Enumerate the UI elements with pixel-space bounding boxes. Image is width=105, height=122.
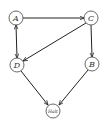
node-halt-label: Halt [47,109,58,114]
edge-c-to-d [23,23,86,61]
node-c-label: C [88,14,94,23]
node-d: D [10,58,24,72]
node-halt: Halt [46,104,60,118]
node-a-label: A [12,14,19,23]
edge-a-d-bidirectional [16,25,17,58]
node-a: A [9,11,23,25]
node-c: C [84,11,98,25]
edge-d-to-halt [21,71,48,105]
edge-c-to-b [91,25,92,57]
edge-b-to-halt [59,70,88,105]
node-d-label: D [13,61,21,70]
node-b-label: B [88,60,95,69]
node-b: B [85,57,99,71]
state-graph: A C D B Halt [0,0,105,122]
